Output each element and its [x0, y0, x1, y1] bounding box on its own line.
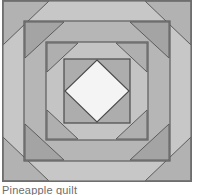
quilt-block-figure — [2, 0, 192, 182]
figure-caption: Pineapple quilt — [2, 184, 202, 195]
quilt-block-svg — [2, 0, 192, 182]
page-root: Pineapple quilt — [0, 0, 204, 195]
